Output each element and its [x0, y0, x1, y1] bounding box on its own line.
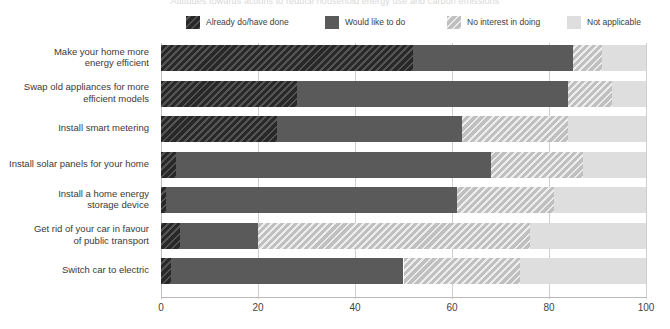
bar-row[interactable]: [161, 81, 646, 107]
bar-segment[interactable]: [413, 45, 573, 71]
legend-item[interactable]: Would like to do: [325, 15, 405, 29]
legend-item-label: Already do/have done: [206, 17, 289, 28]
category-label-line: Make your home more: [0, 46, 149, 58]
legend-swatch-icon: [447, 16, 461, 29]
x-axis-tick-label: 80: [543, 301, 554, 314]
bar-row[interactable]: [161, 187, 646, 213]
bar-segment[interactable]: [161, 45, 413, 71]
legend-swatch-icon: [186, 16, 200, 29]
legend-swatch-icon: [567, 16, 581, 29]
bar-segment[interactable]: [171, 258, 404, 284]
legend-item-label: Would like to do: [345, 17, 405, 28]
bar-segment[interactable]: [161, 116, 277, 142]
legend-item-label: Not applicable: [587, 17, 641, 28]
chart-legend: Already do/have doneWould like to doNo i…: [186, 15, 666, 31]
category-label-line: Switch car to electric: [0, 264, 149, 276]
stacked-bar-chart: Attitudes towards actions to reduce hous…: [0, 0, 670, 329]
bar-segment[interactable]: [583, 152, 646, 178]
legend-item[interactable]: Already do/have done: [186, 15, 289, 29]
bar-segment[interactable]: [180, 223, 258, 249]
bar-segment[interactable]: [297, 81, 569, 107]
bar-row[interactable]: [161, 45, 646, 71]
category-axis-labels: Make your home moreenergy efficientSwap …: [0, 43, 155, 295]
bar-segment[interactable]: [161, 223, 180, 249]
category-label-line: of public transport: [0, 235, 149, 247]
bar-segment[interactable]: [462, 116, 569, 142]
bar-row[interactable]: [161, 116, 646, 142]
bar-segment[interactable]: [166, 187, 457, 213]
legend-item[interactable]: Not applicable: [567, 15, 641, 29]
bar-segment[interactable]: [457, 187, 554, 213]
x-axis-tick-label: 0: [158, 301, 164, 314]
category-label: Install a home energystorage device: [0, 188, 149, 211]
legend-swatch-icon: [325, 16, 339, 29]
category-label: Make your home moreenergy efficient: [0, 46, 149, 69]
x-axis-tick-label: 100: [638, 301, 655, 314]
bar-segment[interactable]: [568, 81, 612, 107]
category-label: Get rid of your car in favourof public t…: [0, 223, 149, 246]
category-label-line: Install a home energy: [0, 188, 149, 200]
category-label-line: Swap old appliances for more: [0, 81, 149, 93]
category-label: Install solar panels for your home: [0, 158, 149, 170]
bar-segment[interactable]: [277, 116, 461, 142]
category-label-line: Get rid of your car in favour: [0, 223, 149, 235]
category-label: Install smart metering: [0, 122, 149, 134]
legend-item[interactable]: No interest in doing: [447, 15, 540, 29]
chart-title: Attitudes towards actions to reduce hous…: [0, 0, 670, 7]
x-axis-line: [161, 297, 647, 298]
bar-segment[interactable]: [554, 187, 646, 213]
legend-item-label: No interest in doing: [467, 17, 540, 28]
x-axis-tick-label: 40: [349, 301, 360, 314]
category-label-line: storage device: [0, 199, 149, 211]
bar-segment[interactable]: [176, 152, 491, 178]
bar-segment[interactable]: [568, 116, 646, 142]
bar-segment[interactable]: [491, 152, 583, 178]
category-label: Switch car to electric: [0, 264, 149, 276]
bar-segment[interactable]: [612, 81, 646, 107]
bar-segment[interactable]: [520, 258, 646, 284]
category-label-line: Install smart metering: [0, 122, 149, 134]
x-axis-tick-label: 60: [446, 301, 457, 314]
category-label-line: energy efficient: [0, 57, 149, 69]
bar-segment[interactable]: [161, 81, 297, 107]
bar-segment[interactable]: [258, 223, 530, 249]
bar-row[interactable]: [161, 223, 646, 249]
bar-segment[interactable]: [161, 152, 176, 178]
category-label-line: Install solar panels for your home: [0, 158, 149, 170]
category-label-line: efficient models: [0, 93, 149, 105]
bar-segment[interactable]: [573, 45, 602, 71]
bar-segment[interactable]: [602, 45, 646, 71]
bar-segment[interactable]: [161, 258, 171, 284]
bar-segment[interactable]: [530, 223, 646, 249]
x-axis-tick-labels: 020406080100: [161, 301, 647, 319]
plot-area: [161, 43, 646, 295]
gridline: [646, 43, 647, 299]
x-axis-tick-label: 20: [252, 301, 263, 314]
bar-segment[interactable]: [404, 258, 520, 284]
category-label: Swap old appliances for moreefficient mo…: [0, 81, 149, 104]
bar-row[interactable]: [161, 152, 646, 178]
bar-row[interactable]: [161, 258, 646, 284]
